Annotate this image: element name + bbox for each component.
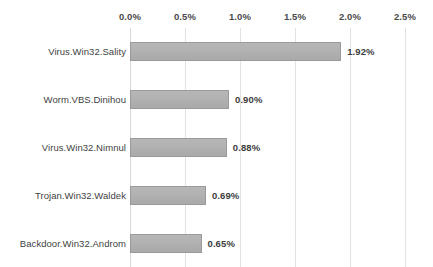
bar-value-label: 1.92% xyxy=(347,46,374,57)
bar[interactable] xyxy=(130,186,206,205)
category-label: Virus.Win32.Sality xyxy=(48,42,126,61)
category-label: Virus.Win32.Nimnul xyxy=(42,138,126,157)
x-tick-label: 2.5% xyxy=(394,11,416,22)
bar-row: 1.92% xyxy=(130,42,375,61)
x-tick-label: 2.0% xyxy=(339,11,361,22)
x-axis-tick-labels: 0.0% 0.5% 1.0% 1.5% 2.0% 2.5% xyxy=(0,11,433,25)
bar-value-label: 0.90% xyxy=(235,94,262,105)
bar-row: 0.69% xyxy=(130,186,239,205)
bar-value-label: 0.65% xyxy=(208,238,235,249)
bar-row: 0.90% xyxy=(130,90,262,109)
x-tick-label: 1.0% xyxy=(229,11,251,22)
bar[interactable] xyxy=(130,90,229,109)
bar[interactable] xyxy=(130,138,227,157)
category-label: Trojan.Win32.Waldek xyxy=(35,186,126,205)
bar-value-label: 0.69% xyxy=(212,190,239,201)
x-tick-label: 0.5% xyxy=(174,11,196,22)
bar-chart: 0.0% 0.5% 1.0% 1.5% 2.0% 2.5% Virus.Win3… xyxy=(0,0,433,267)
bar-value-label: 0.88% xyxy=(233,142,260,153)
bar[interactable] xyxy=(130,234,202,253)
bars-layer: 1.92% 0.90% 0.88% 0.69% 0.65% xyxy=(130,28,433,267)
x-tick-label: 0.0% xyxy=(119,11,141,22)
bar[interactable] xyxy=(130,42,341,61)
bar-row: 0.88% xyxy=(130,138,260,157)
y-axis-category-labels: Virus.Win32.Sality Worm.VBS.Dinihou Viru… xyxy=(0,28,126,267)
category-label: Backdoor.Win32.Androm xyxy=(20,234,126,253)
bar-row: 0.65% xyxy=(130,234,235,253)
category-label: Worm.VBS.Dinihou xyxy=(44,90,126,109)
x-tick-label: 1.5% xyxy=(284,11,306,22)
